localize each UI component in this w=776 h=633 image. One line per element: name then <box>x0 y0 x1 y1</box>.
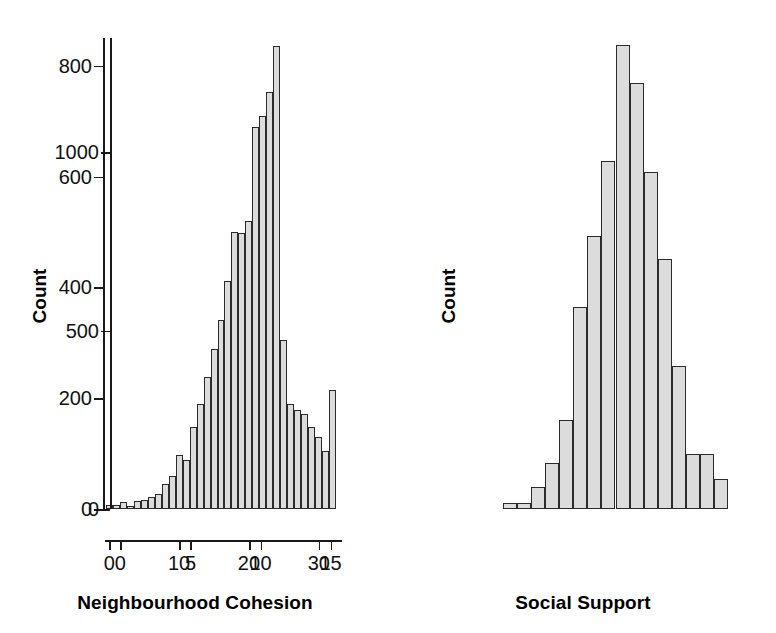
x-tick <box>331 541 333 550</box>
bar-series-right <box>502 38 729 509</box>
x-tick-label: 10 <box>249 552 271 575</box>
plot-area-right <box>502 38 729 509</box>
y-tick <box>94 177 103 179</box>
bar <box>587 236 601 509</box>
y-tick <box>94 398 103 400</box>
bar <box>601 161 615 509</box>
x-tick <box>249 541 251 550</box>
bar <box>211 349 218 509</box>
y-tick-label: 500 <box>66 319 99 342</box>
histogram-figure: Count Neighbourhood Cohesion Social Supp… <box>0 0 776 633</box>
y-tick <box>94 287 103 289</box>
x-tick-label: 0 <box>104 552 115 575</box>
bar <box>308 427 315 509</box>
bar <box>573 307 587 509</box>
x-tick <box>120 541 122 550</box>
bar <box>266 92 273 509</box>
y-tick-label: 1000 <box>55 141 100 164</box>
x-tick <box>109 541 111 550</box>
bar <box>197 404 204 509</box>
x-axis-title-left: Neighbourhood Cohesion <box>0 592 390 614</box>
bar <box>120 502 127 509</box>
bar <box>218 320 225 510</box>
bar <box>273 46 280 509</box>
bar <box>259 116 266 509</box>
y-tick-label: 800 <box>59 54 92 77</box>
bar <box>616 45 630 509</box>
y-tick-label: 200 <box>59 387 92 410</box>
bar <box>245 221 252 509</box>
bar <box>630 83 644 509</box>
bar <box>517 503 531 509</box>
y-tick <box>101 509 110 511</box>
bar <box>329 390 336 509</box>
bar <box>224 281 231 509</box>
x-axis-title-right: Social Support <box>390 592 776 614</box>
bar <box>190 427 197 509</box>
bar <box>531 487 545 509</box>
bar <box>559 420 573 509</box>
x-tick <box>261 541 263 550</box>
y-tick <box>101 331 110 333</box>
bar <box>141 500 148 509</box>
bar <box>545 463 559 509</box>
bar <box>503 503 517 509</box>
bar <box>322 451 329 509</box>
bar <box>714 479 728 509</box>
bar <box>672 366 686 509</box>
plot-area-left <box>105 38 337 509</box>
bar <box>238 233 245 509</box>
bar <box>658 259 672 509</box>
y-axis-title-left: Count <box>29 251 51 341</box>
bar <box>169 476 176 509</box>
bar <box>315 437 322 509</box>
bar <box>294 410 301 509</box>
bar <box>686 454 700 509</box>
y-axis-title-right: Count <box>438 251 460 341</box>
y-tick <box>101 152 110 154</box>
bar <box>155 494 162 510</box>
bar <box>700 454 714 509</box>
bar <box>162 484 169 509</box>
bar <box>134 501 141 509</box>
bar <box>148 497 155 509</box>
bar <box>204 377 211 509</box>
x-tick-label: 15 <box>319 552 341 575</box>
x-tick <box>179 541 181 550</box>
bar <box>252 127 259 509</box>
x-tick <box>190 541 192 550</box>
x-tick-label: 5 <box>185 552 196 575</box>
panel-neighbourhood-cohesion: Count Neighbourhood Cohesion <box>0 0 390 633</box>
y-tick-label: 0 <box>88 498 99 521</box>
y-tick-label: 400 <box>59 276 92 299</box>
bar <box>280 340 287 509</box>
y-tick <box>94 66 103 68</box>
bar <box>644 172 658 509</box>
x-tick-label: 0 <box>115 552 126 575</box>
x-axis-line-right <box>112 540 342 542</box>
bar <box>301 414 308 509</box>
y-tick-label: 600 <box>59 165 92 188</box>
y-axis-line-right <box>110 38 112 509</box>
x-tick <box>319 541 321 550</box>
bar <box>113 505 120 509</box>
bar <box>231 232 238 509</box>
bar <box>127 506 134 509</box>
bar <box>287 404 294 509</box>
bar-series-left <box>105 38 337 509</box>
bar <box>176 455 183 509</box>
bar <box>183 460 190 509</box>
